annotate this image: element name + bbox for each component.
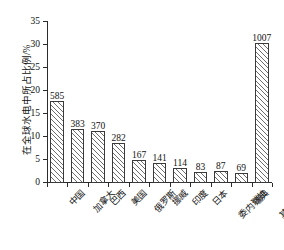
y-tick-15: 15 — [43, 113, 48, 114]
bar-value-label: 87 — [216, 161, 226, 172]
bar: 69 — [235, 173, 249, 183]
x-category-label: 其他国家 — [277, 188, 284, 221]
x-tick — [190, 183, 191, 187]
x-category-text: 印度 — [190, 188, 210, 208]
bar-value-label: 141 — [152, 153, 166, 164]
y-tick-label: 30 — [31, 38, 41, 50]
x-tick — [170, 183, 171, 187]
y-tick-5: 5 — [43, 159, 48, 160]
x-tick — [231, 183, 232, 187]
bar: 167 — [132, 160, 146, 183]
y-tick-10: 10 — [43, 136, 48, 137]
bar: 141 — [153, 163, 167, 183]
bar: 83 — [194, 172, 208, 184]
bar-value-label: 1007 — [252, 33, 271, 44]
x-category-text: 瑞典 — [252, 188, 272, 208]
bar-value-label: 69 — [237, 163, 247, 174]
bar-value-label: 370 — [91, 121, 105, 132]
y-tick-label: 10 — [31, 130, 41, 142]
bar: 1007 — [255, 43, 269, 183]
y-tick-25: 25 — [43, 67, 48, 68]
bar-value-label: 114 — [173, 158, 187, 169]
x-category-label: 日本 — [211, 188, 231, 208]
x-category-text: 其他国家 — [277, 188, 284, 221]
x-category-label: 瑞典 — [252, 188, 272, 208]
x-tick — [67, 183, 68, 187]
x-tick — [252, 183, 253, 187]
x-tick — [211, 183, 212, 187]
x-category-label: 中国 — [67, 188, 87, 208]
y-tick-label: 15 — [31, 107, 41, 119]
y-tick-label: 5 — [35, 153, 40, 165]
y-tick-label: 20 — [31, 84, 41, 96]
y-tick-label: 25 — [31, 61, 41, 73]
hydropower-share-bar-chart: 在全球水电中所占比例/% 05101520253035 585383370282… — [0, 0, 284, 250]
x-tick — [88, 183, 89, 187]
bar-value-label: 167 — [132, 150, 146, 161]
bar: 383 — [71, 129, 85, 183]
y-tick-35: 35 — [43, 21, 48, 22]
bar-value-label: 383 — [71, 119, 85, 130]
x-category-text: 美国 — [129, 188, 149, 208]
x-tick — [108, 183, 109, 187]
x-tick — [47, 183, 48, 187]
y-tick-label: 0 — [35, 176, 40, 188]
y-tick-30: 30 — [43, 44, 48, 45]
x-category-text: 中国 — [67, 188, 87, 208]
plot-area: 05101520253035 5853833702821671411148387… — [47, 22, 272, 183]
bar: 282 — [112, 143, 126, 183]
bar: 585 — [50, 101, 64, 183]
bar: 114 — [173, 168, 187, 183]
x-tick — [149, 183, 150, 187]
bar-value-label: 83 — [196, 162, 206, 173]
x-tick — [129, 183, 130, 187]
y-tick-label: 35 — [31, 15, 41, 27]
y-tick-20: 20 — [43, 90, 48, 91]
x-category-text: 日本 — [211, 188, 231, 208]
bar: 87 — [214, 171, 228, 183]
x-tick — [272, 183, 273, 187]
bar: 370 — [91, 131, 105, 183]
x-category-label: 美国 — [129, 188, 149, 208]
bar-value-label: 585 — [50, 91, 64, 102]
x-category-label: 印度 — [190, 188, 210, 208]
bar-value-label: 282 — [111, 133, 125, 144]
